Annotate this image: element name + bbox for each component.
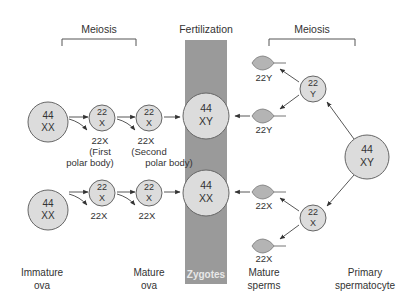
cell-label: XY <box>199 115 213 127</box>
second-polar-body-label: polar body) <box>145 157 193 168</box>
cell-label: XY <box>360 156 374 168</box>
fertilization-label: Fertilization <box>179 23 233 35</box>
mature-ova-label: ova <box>141 280 158 291</box>
sperm-label: 22Y <box>256 124 274 135</box>
sperm-22x-bottom: 22X <box>252 239 286 264</box>
primary-spermatocyte-label: Primary <box>348 267 382 278</box>
cell-label: X <box>99 118 105 128</box>
cell-label: 22 <box>97 182 107 192</box>
cell-label: X <box>310 218 316 228</box>
cell-label: 22 <box>308 207 318 217</box>
arrow <box>69 194 87 205</box>
cell-label: 22 <box>144 182 154 192</box>
sperm-label: 22X <box>256 253 274 264</box>
sperm-label: 22X <box>256 200 274 211</box>
oogenesis-row-1: 44 XX 22 X 22X (First polar body) 22 X 2… <box>28 102 193 168</box>
cell-label: 44 <box>200 179 212 191</box>
cell-label: XX <box>41 210 55 221</box>
cell-label: XX <box>41 122 55 133</box>
sperm-22y-bottom: 22Y <box>252 109 286 135</box>
first-polar-body-label: (First <box>89 146 111 157</box>
cell-label: 44 <box>361 143 373 155</box>
zygotes-label: Zygotes <box>187 269 226 280</box>
oogenesis-row-2: 44 XX 22 X 22X 22 X 22X <box>28 180 180 230</box>
first-polar-body-label: 22X <box>92 135 110 146</box>
mature-sperms-label: Mature <box>248 267 280 278</box>
cell-label: Y <box>310 89 316 99</box>
arrow <box>327 175 354 206</box>
meiosis-right-label: Meiosis <box>294 23 330 35</box>
first-polar-body-label: 22X <box>91 210 109 221</box>
cell-label: X <box>146 118 152 128</box>
immature-ova-label: Immature <box>21 267 64 278</box>
cell-label: 44 <box>42 198 54 209</box>
sperm-22x-top: 22X <box>252 185 286 211</box>
first-polar-body-label: polar body) <box>66 157 114 168</box>
second-polar-body-label: (Second <box>131 146 166 157</box>
second-polar-body-label: 22X <box>138 135 156 146</box>
arrow <box>280 95 299 109</box>
cell-label: X <box>146 193 152 203</box>
cell-label: 44 <box>42 110 54 121</box>
meiosis-left-label: Meiosis <box>81 23 117 35</box>
sperm-label: 22Y <box>256 72 274 83</box>
arrow <box>280 198 299 211</box>
arrow <box>117 194 135 205</box>
arrow <box>117 119 135 130</box>
cell-label: 22 <box>308 78 318 88</box>
arrow <box>280 225 299 239</box>
cell-label: 22 <box>97 107 107 117</box>
cell-label: 22 <box>144 107 154 117</box>
arrow <box>280 69 299 82</box>
immature-ova-label: ova <box>34 280 51 291</box>
cell-label: X <box>99 193 105 203</box>
spermatogenesis: 22Y 22Y 22X 22X 22 Y 22 X <box>235 56 389 264</box>
arrow <box>69 119 87 130</box>
cell-label: XX <box>199 192 213 204</box>
cell-label: 44 <box>200 102 212 114</box>
mature-sperms-label: sperms <box>248 280 281 291</box>
mature-ova-label: Mature <box>133 267 165 278</box>
second-polar-body-label: 22X <box>139 210 157 221</box>
arrow <box>327 102 354 139</box>
fertilization-diagram: Zygotes Meiosis Fertilization Meiosis 44… <box>0 0 412 308</box>
meiosis-left-bracket <box>62 39 136 46</box>
meiosis-right-bracket <box>269 39 355 46</box>
primary-spermatocyte-label: spermatocyte <box>335 280 395 291</box>
